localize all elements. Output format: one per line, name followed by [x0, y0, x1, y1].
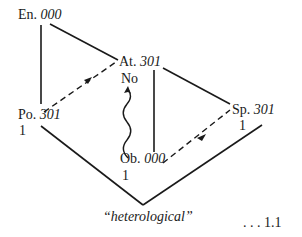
node-at-abbr: At.: [119, 54, 137, 69]
node-po-sub: 1: [19, 124, 26, 138]
node-po-abbr: Po.: [18, 107, 36, 122]
node-sp-sub: 1: [239, 119, 246, 133]
node-sp-abbr: Sp.: [232, 102, 250, 117]
diagram-canvas: En. 000 At. 301 No Po. 301 1 Sp. 301 1 O…: [0, 0, 302, 237]
edge-at-sp: [163, 68, 230, 104]
node-sp: Sp. 301: [232, 103, 275, 117]
node-po-code: 301: [40, 107, 61, 122]
diagram-caption: “heterological”: [103, 210, 193, 224]
edge-po-at-dashed: [44, 62, 116, 112]
node-at: At. 301: [119, 55, 161, 69]
node-ob-code: 000: [144, 151, 165, 166]
node-ob: Ob. 000: [120, 152, 165, 166]
node-en: En. 000: [18, 8, 62, 22]
node-en-code: 000: [41, 7, 62, 22]
node-sp-code: 301: [254, 102, 275, 117]
edge-ob-at-wavy: [123, 89, 131, 158]
node-ob-abbr: Ob.: [120, 151, 141, 166]
diagram-reference: . . . 1.1: [243, 216, 282, 230]
arrowhead-ob-at: [124, 86, 131, 94]
node-at-code: 301: [140, 54, 161, 69]
node-at-sub: No: [121, 72, 138, 86]
node-ob-sub: 1: [122, 169, 129, 183]
edge-en-at: [50, 24, 118, 60]
edge-ob-sp-dashed: [163, 110, 230, 163]
node-en-abbr: En.: [18, 7, 37, 22]
node-po: Po. 301: [18, 108, 61, 122]
